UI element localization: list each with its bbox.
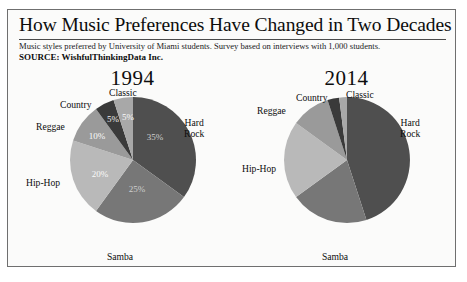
pie-value-hard-rock: 35%	[146, 132, 163, 142]
pie-value-reggae: 10%	[88, 131, 105, 141]
pie-label-country: Country	[60, 100, 91, 111]
pie-label-hard-rock-line1: Hard	[185, 117, 204, 128]
pie-label-reggae: Reggae	[36, 122, 65, 133]
pie-value-classic: 5%	[122, 112, 135, 122]
pie-label-hard-rock: Hard Rock	[400, 118, 420, 139]
pie-value-samba: 25%	[128, 184, 145, 194]
page-title: How Music Preferences Have Changed in Tw…	[19, 14, 447, 36]
chart-panel-1994: 1994 35% 25% 20% 10% 5%	[30, 66, 235, 266]
source-credit: SOURCE: WishfulThinkingData Inc.	[19, 52, 163, 63]
pie-label-hard-rock-line1: Hard	[401, 117, 420, 128]
pie-label-reggae: Reggae	[257, 106, 286, 117]
subtitle-text: Music styles preferred by University of …	[19, 41, 451, 52]
pie-label-hip-hop: Hip-Hop	[242, 164, 276, 175]
pie-chart-2014	[282, 95, 412, 225]
pie-label-hard-rock-line2: Rock	[184, 128, 204, 139]
pie-value-country: 5%	[107, 114, 120, 124]
pie-value-hip-hop: 20%	[91, 169, 108, 179]
pie-label-classic: Classic	[109, 88, 137, 99]
infographic-frame: How Music Preferences Have Changed in Tw…	[7, 9, 456, 267]
title-divider	[19, 39, 446, 40]
chart-panel-2014: 2014	[244, 66, 449, 266]
pie-label-hip-hop: Hip-Hop	[26, 178, 60, 189]
pie-label-samba: Samba	[107, 252, 133, 263]
pie-chart-1994: 35% 25% 20% 10% 5% 5%	[68, 95, 198, 225]
pie-label-country: Country	[296, 93, 327, 104]
chart-year-2014: 2014	[244, 66, 449, 91]
pie-label-samba: Samba	[322, 252, 348, 263]
pie-label-hard-rock: Hard Rock	[184, 118, 204, 139]
pie-label-classic: Classic	[346, 90, 374, 101]
pie-label-hard-rock-line2: Rock	[400, 128, 420, 139]
